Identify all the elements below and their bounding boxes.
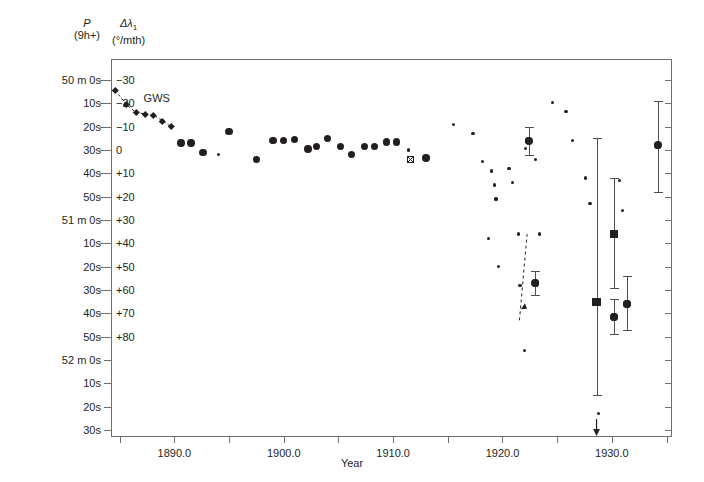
data-point-small — [538, 232, 541, 235]
y-axis-left-label: 10s — [83, 238, 101, 249]
y-axis-right-tick — [100, 103, 111, 104]
y-axis-left-header-unit: (9h+) — [74, 29, 100, 41]
y-axis-mirror-tick — [665, 383, 672, 384]
y-axis-right-label: 0 — [116, 145, 122, 156]
y-axis-right-tick — [100, 290, 111, 291]
data-point-small — [618, 179, 621, 182]
plot-area — [111, 59, 672, 437]
data-point-small — [452, 123, 455, 126]
y-axis-mirror-tick — [665, 360, 672, 361]
y-axis-right-label: +30 — [116, 215, 135, 226]
data-point-small — [534, 158, 537, 161]
y-axis-mirror-tick — [665, 80, 672, 81]
y-axis-mirror-tick — [665, 430, 672, 431]
crossed-square-marker — [407, 156, 414, 163]
data-point — [393, 138, 400, 145]
data-point — [269, 137, 276, 144]
y-axis-left-label: 30s — [83, 145, 101, 156]
data-point-small — [588, 202, 591, 205]
x-axis-tick — [667, 437, 668, 443]
y-axis-right-label: +50 — [116, 262, 135, 273]
y-axis-right-tick — [100, 150, 111, 151]
y-axis-right-label: +60 — [116, 285, 135, 296]
x-axis-tick — [284, 437, 285, 443]
y-axis-right-tick — [100, 127, 111, 128]
y-axis-mirror-tick — [665, 197, 672, 198]
data-point-small — [518, 284, 521, 287]
x-axis-tick — [174, 437, 175, 443]
y-axis-left-label: 10s — [83, 378, 101, 389]
y-axis-left-label: 20s — [83, 122, 101, 133]
error-bar-cap — [525, 127, 534, 128]
data-point-small — [407, 148, 410, 151]
x-axis-tick — [393, 437, 394, 443]
y-axis-left-label: 20s — [83, 402, 101, 413]
y-axis-right-label: −10 — [116, 122, 135, 133]
y-axis-right-tick — [100, 267, 111, 268]
y-axis-right-header-unit: (°/mth) — [112, 34, 145, 46]
y-axis-right-tick — [100, 220, 111, 221]
data-point-small — [584, 176, 587, 179]
y-axis-right-tick — [100, 313, 111, 314]
y-axis-left-label: 50s — [83, 332, 101, 343]
y-axis-mirror-tick — [665, 243, 672, 244]
x-axis-title: Year — [0, 458, 704, 469]
y-axis-right-header: Δλ1 (°/mth) — [112, 17, 145, 46]
y-axis-mirror-tick — [665, 150, 672, 151]
data-point-small — [471, 132, 474, 135]
y-axis-mirror-tick — [665, 127, 672, 128]
y-axis-right-label: +70 — [116, 308, 135, 319]
data-point — [177, 139, 184, 146]
y-axis-mirror-tick — [665, 220, 672, 221]
y-axis-mirror-tick — [665, 267, 672, 268]
error-bar-cap — [531, 295, 540, 296]
x-axis-tick — [557, 437, 558, 443]
y-axis-left-header-symbol: P — [74, 17, 100, 29]
data-point-small — [494, 197, 497, 200]
y-axis-left-label: 50 m 0s — [62, 75, 101, 86]
gws-series-label: GWS — [144, 93, 170, 104]
error-bar — [597, 138, 598, 395]
y-axis-mirror-tick — [665, 407, 672, 408]
error-bar-cap — [593, 395, 602, 396]
data-point-with-error — [623, 300, 631, 308]
y-axis-mirror-tick — [665, 173, 672, 174]
x-axis-tick — [120, 437, 121, 443]
data-point-with-error — [610, 313, 618, 321]
y-axis-right-tick — [100, 173, 111, 174]
data-point — [304, 145, 311, 152]
error-bar-cap — [525, 155, 534, 156]
data-point-small — [490, 169, 493, 172]
x-axis-tick — [229, 437, 230, 443]
y-axis-left-label: 40s — [83, 168, 101, 179]
error-bar-cap — [610, 334, 619, 335]
x-axis-tick — [612, 437, 613, 443]
data-point — [422, 154, 429, 161]
error-bar-cap — [623, 276, 632, 277]
data-point-square — [592, 298, 600, 306]
y-axis-right-header-symbol: Δλ1 — [112, 17, 145, 34]
data-point — [253, 156, 260, 163]
x-axis-tick — [448, 437, 449, 443]
y-axis-left-tick — [104, 407, 111, 408]
y-axis-left-label: 20s — [83, 262, 101, 273]
plot-overlay — [111, 59, 672, 437]
data-point — [383, 138, 390, 145]
y-axis-right-tick — [100, 197, 111, 198]
data-point-small — [507, 167, 510, 170]
y-axis-right-label: +10 — [116, 168, 135, 179]
y-axis-left-label: 51 m 0s — [62, 215, 101, 226]
y-axis-left-label: 50s — [83, 192, 101, 203]
data-point-with-error — [654, 141, 662, 149]
y-axis-right-tick — [100, 243, 111, 244]
trend-arrow-head — [521, 303, 527, 309]
y-axis-left-tick — [104, 430, 111, 431]
error-bar-cap — [593, 138, 602, 139]
data-point-small — [564, 110, 567, 113]
error-bar-cap — [623, 330, 632, 331]
y-axis-mirror-tick — [665, 103, 672, 104]
data-point — [187, 139, 194, 146]
y-axis-mirror-tick — [665, 290, 672, 291]
y-axis-right-label: +80 — [116, 332, 135, 343]
down-arrow-head — [593, 429, 600, 436]
